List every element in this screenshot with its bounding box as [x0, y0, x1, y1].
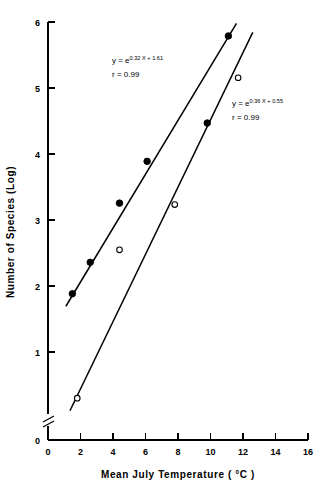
data-point-filled [225, 33, 232, 40]
annotation-equation-lower: y = e0.36 X + 0.55 r = 0.99 [232, 98, 283, 123]
data-point-filled [87, 259, 94, 266]
x-tick-label-12: 12 [238, 447, 248, 457]
data-point-filled [116, 200, 123, 207]
data-point-open [172, 202, 178, 208]
equation-upper-r: r = 0.99 [112, 70, 140, 79]
annotation-equation-upper: y = e0.32 X + 1.61 r = 0.99 [112, 55, 163, 80]
y-tick-group [48, 22, 55, 352]
data-points-open-series [74, 75, 240, 401]
y-tick-label-3: 3 [35, 216, 40, 226]
chart-figure: 6 5 4 3 2 1 0 0 2 4 6 8 10 12 14 [0, 0, 326, 488]
x-tick-group [81, 433, 309, 440]
equation-lower-exponent: 0.36 X + 0.55 [250, 98, 283, 104]
data-point-filled [204, 120, 211, 127]
y-axis-title: Number of Species (Log) [5, 166, 16, 298]
x-tick-labels: 0 2 4 6 8 10 12 14 16 [45, 447, 313, 457]
equation-upper-prefix: y = e [112, 56, 130, 65]
y-axis-break-icon [43, 416, 54, 427]
x-tick-label-14: 14 [270, 447, 280, 457]
equation-upper-exponent: 0.32 X + 1.61 [130, 55, 163, 61]
data-point-open [74, 395, 80, 401]
x-tick-label-8: 8 [175, 447, 180, 457]
y-tick-label-4: 4 [35, 150, 40, 160]
x-tick-label-10: 10 [205, 447, 215, 457]
fit-line-open-series [70, 32, 253, 410]
y-tick-label-5: 5 [35, 84, 40, 94]
axis-group [43, 22, 308, 440]
data-point-open [117, 247, 123, 253]
scatter-plot-canvas: 6 5 4 3 2 1 0 0 2 4 6 8 10 12 14 [0, 0, 326, 488]
equation-lower-prefix: y = e [232, 99, 250, 108]
y-tick-labels: 6 5 4 3 2 1 0 [35, 18, 40, 446]
x-tick-label-6: 6 [143, 447, 148, 457]
x-tick-label-2: 2 [78, 447, 83, 457]
x-tick-label-0: 0 [45, 447, 50, 457]
y-tick-label-1: 1 [35, 348, 40, 358]
data-point-filled [144, 158, 151, 165]
data-point-filled [69, 290, 76, 297]
fit-line-group [66, 23, 253, 410]
x-tick-label-4: 4 [110, 447, 115, 457]
y-tick-label-6: 6 [35, 18, 40, 28]
svg-text:y = e0.32 X + 1.61: y = e0.32 X + 1.61 [112, 55, 163, 66]
data-point-open [235, 75, 241, 81]
y-tick-label-2: 2 [35, 282, 40, 292]
y-tick-label-0: 0 [35, 436, 40, 446]
x-tick-label-16: 16 [303, 447, 313, 457]
svg-text:y = e0.36 X + 0.55: y = e0.36 X + 0.55 [232, 98, 283, 109]
x-axis-title: Mean July Temperature ( °C ) [101, 469, 255, 480]
equation-lower-r: r = 0.99 [232, 113, 260, 122]
